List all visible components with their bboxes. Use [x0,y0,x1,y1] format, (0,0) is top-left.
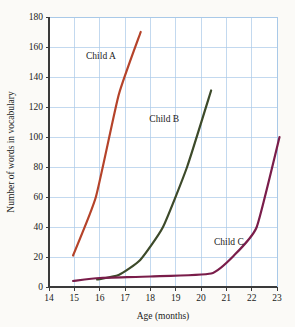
x-tick-label: 14 [44,293,54,303]
y-tick-label: 140 [29,72,44,82]
y-tick-label: 60 [34,192,44,202]
y-axis-title: Number of words in vocabulary [6,91,16,213]
chart-canvas: 1415161718192021222302040608010012014016… [0,0,295,327]
y-tick-label: 160 [29,42,44,52]
y-tick-label: 100 [29,132,44,142]
y-tick-label: 120 [29,102,44,112]
y-tick-label: 180 [29,12,44,22]
y-tick-label: 80 [34,162,44,172]
x-tick-label: 17 [120,293,130,303]
x-tick-label: 19 [171,293,181,303]
x-tick-label: 18 [146,293,156,303]
series-label-child-b: Child B [149,114,179,124]
x-tick-label: 20 [196,293,206,303]
y-tick-label: 0 [38,282,43,292]
y-tick-label: 40 [34,222,44,232]
x-tick-label: 15 [70,293,80,303]
vocabulary-growth-chart: 1415161718192021222302040608010012014016… [0,0,295,327]
x-axis-title: Age (months) [137,311,190,322]
x-tick-label: 16 [95,293,105,303]
series-label-child-c: Child C [214,237,244,247]
x-tick-label: 23 [272,293,282,303]
y-tick-label: 20 [34,252,44,262]
x-tick-label: 22 [247,293,257,303]
series-label-child-a: Child A [86,51,116,61]
x-tick-label: 21 [222,293,232,303]
